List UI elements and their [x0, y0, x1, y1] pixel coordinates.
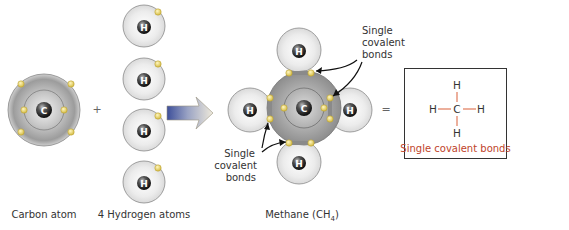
electron [155, 113, 161, 119]
methane-diagram: C Carbon atom + H H H [0, 0, 569, 230]
hydrogen-atoms-label: 4 Hydrogen atoms [98, 209, 190, 220]
electron [327, 95, 333, 101]
hydrogen-atom: H [123, 161, 165, 203]
methane-label-main: Methane (CH [265, 209, 330, 220]
electron [267, 116, 273, 122]
hydrogen-symbol: H [295, 47, 303, 57]
carbon-atom: C [8, 74, 80, 146]
formula-caption: Single covalent bonds [400, 143, 510, 154]
hydrogen-atom: H [123, 58, 165, 100]
electron [18, 81, 24, 87]
hydrogen-symbol: H [140, 127, 148, 137]
annotation-bottom-line2: covalent [214, 160, 257, 171]
methane-hydrogen-bottom: H [277, 140, 321, 184]
hydrogen-symbol: H [295, 159, 303, 169]
methane-hydrogen-top: H [277, 28, 321, 72]
carbon-symbol: C [41, 106, 48, 116]
hydrogen-atom: H [123, 109, 165, 151]
annotation-top-line2: covalent [362, 37, 405, 48]
carbon-symbol: C [301, 104, 308, 114]
electron [68, 129, 74, 135]
hydrogen-symbol: H [140, 23, 148, 33]
hydrogen-symbol: H [140, 76, 148, 86]
annotation-top-line3: bonds [362, 49, 392, 60]
electron [18, 129, 24, 135]
hydrogen-symbol: H [346, 106, 354, 116]
electron [327, 116, 333, 122]
hydrogen-atom: H [123, 5, 165, 47]
carbon-atom-label: Carbon atom [11, 209, 76, 220]
annotation-bottom-line3: bonds [226, 172, 256, 183]
equals-sign: = [381, 103, 390, 116]
electron [21, 107, 27, 113]
electron [308, 140, 314, 146]
electron [155, 165, 161, 171]
hydrogen-atoms: H H H H [123, 5, 165, 203]
hydrogen-symbol: H [140, 179, 148, 189]
annotation-top-line1: Single [362, 25, 393, 36]
pointer-arrow [316, 60, 357, 71]
plus-sign: + [92, 103, 101, 116]
annotation-bottom-line1: Single [224, 148, 255, 159]
formula-c-center: C [453, 103, 460, 115]
electron [286, 70, 292, 76]
formula-h-top: H [453, 79, 461, 91]
formula-h-bottom: H [453, 127, 461, 139]
electron [61, 107, 67, 113]
reaction-arrow [167, 97, 213, 129]
electron [308, 70, 314, 76]
methane-hydrogen-left: H [228, 88, 272, 132]
hydrogen-symbol: H [246, 106, 254, 116]
methane-label: Methane (CH4) [265, 209, 339, 223]
formula-h-left: H [429, 103, 437, 115]
electron [281, 105, 287, 111]
methane-label-end: ) [335, 209, 339, 220]
electron [155, 9, 161, 15]
formula-h-right: H [477, 103, 485, 115]
electron [68, 81, 74, 87]
structural-formula-box: H H C H H Single covalent bonds [400, 69, 510, 159]
electron [267, 95, 273, 101]
electron [155, 61, 161, 67]
electron [286, 140, 292, 146]
electron [321, 105, 327, 111]
